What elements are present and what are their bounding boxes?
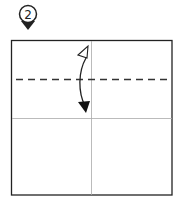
origami-step-diagram: 2: [0, 0, 178, 204]
step-number: 2: [24, 8, 32, 22]
step-marker: 2: [20, 6, 37, 31]
